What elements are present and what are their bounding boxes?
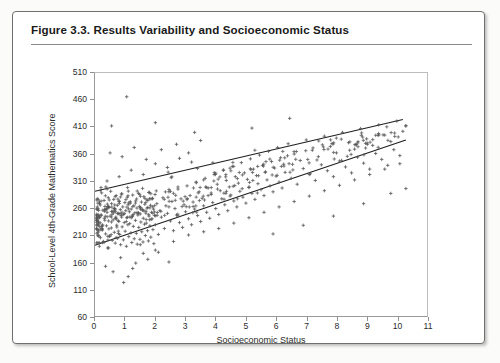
data-point — [346, 155, 349, 158]
data-point — [332, 151, 335, 154]
data-point — [113, 231, 116, 234]
data-point — [142, 173, 145, 176]
data-point — [174, 199, 177, 202]
data-point — [205, 211, 208, 214]
data-point — [166, 196, 169, 199]
data-point — [401, 130, 404, 133]
data-point — [256, 165, 259, 168]
data-point — [166, 166, 169, 169]
data-point — [253, 198, 256, 201]
data-point — [119, 195, 122, 198]
data-point — [251, 171, 254, 174]
data-point — [175, 143, 178, 146]
data-point — [119, 256, 122, 259]
data-point — [280, 186, 283, 189]
data-point — [185, 184, 188, 187]
data-point — [160, 215, 163, 218]
data-point — [234, 175, 237, 178]
data-point — [174, 194, 177, 197]
data-point — [137, 226, 140, 229]
data-point — [241, 173, 244, 176]
data-point — [196, 167, 199, 170]
data-point — [108, 151, 111, 154]
x-tick-label: 11 — [424, 321, 433, 331]
data-point — [134, 261, 137, 264]
data-point — [99, 199, 102, 202]
data-point — [247, 216, 250, 219]
data-point — [166, 170, 169, 173]
x-tick-label: 1 — [122, 321, 127, 331]
data-point — [240, 161, 243, 164]
data-point — [270, 160, 273, 163]
data-point — [280, 165, 283, 168]
data-point — [386, 164, 389, 167]
y-tick-mark — [90, 290, 94, 291]
data-point — [132, 225, 135, 228]
data-point — [299, 159, 302, 162]
data-point — [139, 243, 142, 246]
data-point — [211, 161, 214, 164]
x-tick-label: 5 — [243, 321, 248, 331]
data-point — [288, 117, 291, 120]
data-point — [341, 131, 344, 134]
data-point — [216, 187, 219, 190]
data-point — [140, 230, 143, 233]
data-point — [291, 163, 294, 166]
data-point — [389, 131, 392, 134]
data-point — [362, 161, 365, 164]
data-point — [326, 147, 329, 150]
data-point — [377, 146, 380, 149]
data-point — [232, 221, 235, 224]
data-point — [276, 146, 279, 149]
data-point — [218, 175, 221, 178]
data-point — [154, 223, 157, 226]
data-points-layer — [95, 73, 427, 316]
data-point — [362, 139, 365, 142]
data-point — [392, 148, 395, 151]
y-tick-mark — [90, 235, 94, 236]
x-tick-mark — [337, 317, 338, 321]
data-point — [283, 156, 286, 159]
data-point — [136, 242, 139, 245]
data-point — [217, 213, 220, 216]
data-point — [338, 184, 341, 187]
data-point — [235, 205, 238, 208]
data-point — [294, 158, 297, 161]
data-point — [117, 175, 120, 178]
data-point — [233, 184, 236, 187]
plot-area — [94, 72, 428, 317]
data-point — [374, 152, 377, 155]
data-point — [173, 207, 176, 210]
data-point — [122, 238, 125, 241]
data-point — [184, 205, 187, 208]
data-point — [105, 179, 108, 182]
data-point — [110, 220, 113, 223]
data-point — [393, 135, 396, 138]
data-point — [191, 211, 194, 214]
data-point — [362, 202, 365, 205]
data-point — [155, 202, 158, 205]
data-point — [172, 229, 175, 232]
data-point — [194, 204, 197, 207]
data-point — [123, 201, 126, 204]
y-tick-label: 60 — [15, 312, 87, 322]
data-point — [322, 148, 325, 151]
data-point — [222, 168, 225, 171]
data-point — [121, 205, 124, 208]
data-point — [127, 235, 130, 238]
data-point — [188, 194, 191, 197]
data-point — [99, 186, 102, 189]
y-tick-mark — [90, 99, 94, 100]
data-point — [202, 204, 205, 207]
data-point — [302, 224, 305, 227]
data-point — [141, 240, 144, 243]
data-point — [130, 241, 133, 244]
data-point — [353, 147, 356, 150]
data-point — [226, 209, 229, 212]
data-point — [219, 189, 222, 192]
data-point — [348, 149, 351, 152]
data-point — [193, 131, 196, 134]
data-point — [184, 210, 187, 213]
data-point — [249, 157, 252, 160]
data-point — [178, 157, 181, 160]
